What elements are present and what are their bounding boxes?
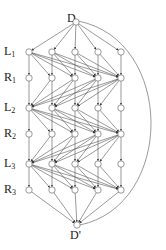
node-R2-2 (49, 131, 55, 137)
node-R1-4 (95, 75, 101, 81)
edge (55, 134, 98, 162)
edge (29, 164, 118, 189)
node-R1-5 (118, 75, 124, 81)
node-L2-4 (95, 105, 101, 111)
edge (54, 78, 75, 105)
edge (79, 190, 98, 222)
edge (75, 190, 77, 222)
feedback-arc (78, 21, 151, 225)
edge (55, 78, 98, 106)
edge (75, 52, 96, 76)
node-R3-5 (118, 187, 124, 193)
node-R1-1 (26, 75, 32, 81)
edge (54, 22, 76, 50)
edge (75, 52, 118, 76)
node-L1-3 (72, 49, 78, 55)
node-L3-3 (72, 161, 78, 167)
edge (98, 164, 119, 188)
edge (78, 134, 121, 162)
node-L2-5 (118, 105, 124, 111)
edge (29, 52, 50, 76)
node-L2-2 (49, 105, 55, 111)
edge (32, 22, 76, 50)
node-L1-4 (95, 49, 101, 55)
node-L3-1 (26, 161, 32, 167)
edge (77, 78, 98, 105)
node-R3-4 (95, 187, 101, 193)
edge (52, 190, 75, 222)
node-R3-3 (72, 187, 78, 193)
node-R2-3 (72, 131, 78, 137)
node-R2-5 (118, 131, 124, 137)
edges (29, 21, 151, 225)
layered-graph (0, 0, 166, 250)
edge (29, 52, 118, 77)
node-L3-2 (49, 161, 55, 167)
node-R1-3 (72, 75, 78, 81)
node-R1-2 (49, 75, 55, 81)
edge (75, 108, 118, 132)
edge (100, 78, 121, 105)
source-node (73, 19, 79, 25)
node-L1-2 (49, 49, 55, 55)
edge (29, 164, 72, 188)
edge (52, 52, 95, 76)
node-L2-3 (72, 105, 78, 111)
edge (29, 108, 118, 133)
edge (29, 108, 50, 132)
edge (75, 22, 76, 49)
edge (75, 164, 96, 188)
edge (98, 108, 119, 132)
node-L1-1 (26, 49, 32, 55)
edge (77, 134, 98, 161)
node-R3-2 (49, 187, 55, 193)
edge (29, 52, 72, 76)
edge (98, 52, 119, 76)
edge (75, 108, 96, 132)
edge (52, 164, 95, 188)
edge (76, 22, 96, 49)
edge (78, 78, 121, 106)
edge (100, 134, 121, 161)
node-L2-1 (26, 105, 32, 111)
node-L1-5 (118, 49, 124, 55)
edge (32, 134, 121, 163)
edge (32, 134, 75, 162)
edge (29, 164, 50, 188)
node-L3-4 (95, 161, 101, 167)
edge (52, 108, 95, 132)
edge (54, 134, 75, 161)
node-R3-1 (26, 187, 32, 193)
sink-node (74, 222, 80, 228)
node-R2-1 (26, 131, 32, 137)
edge (75, 164, 118, 188)
edge (32, 78, 75, 106)
edge (29, 190, 74, 223)
edge (29, 108, 72, 132)
node-R2-4 (95, 131, 101, 137)
node-L3-5 (118, 161, 124, 167)
edge (32, 78, 121, 107)
